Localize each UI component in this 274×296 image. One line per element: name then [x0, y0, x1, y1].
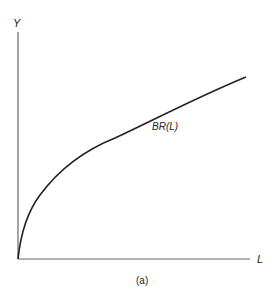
- br-curve: [18, 77, 246, 259]
- y-axis-label: Y: [13, 18, 20, 29]
- curve-label: BR(L): [152, 122, 178, 132]
- figure-caption: (a): [136, 276, 148, 286]
- diagram-canvas: [0, 0, 274, 296]
- x-axis-label: L: [257, 254, 263, 265]
